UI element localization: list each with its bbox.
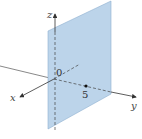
plane-y-equals-5: [48, 1, 111, 129]
y-axis-label: y: [130, 100, 137, 111]
x-axis-back: [0, 66, 54, 79]
z-axis-label: z: [46, 9, 53, 20]
y-axis: [111, 92, 136, 97]
origin-label: 0: [56, 67, 62, 78]
x-axis-label: x: [10, 92, 16, 103]
coordinate-diagram: z x y 0 5: [0, 0, 142, 139]
point-five-label: 5: [82, 89, 88, 100]
point-five: [84, 84, 87, 87]
